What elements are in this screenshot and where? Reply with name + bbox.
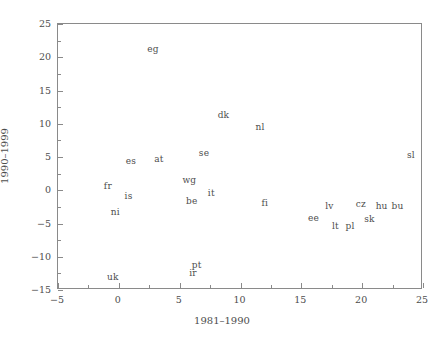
data-point-label: se: [199, 148, 209, 158]
data-point-label: lv: [325, 201, 333, 211]
data-point-label: cz: [356, 199, 366, 209]
data-point-label: pl: [345, 221, 354, 231]
x-axis-minor-tick: [271, 285, 272, 288]
y-axis-minor-tick: [58, 107, 61, 108]
y-axis-tick-label: −5: [23, 217, 51, 228]
y-axis-tick-label: 10: [23, 117, 51, 128]
x-axis-minor-tick: [149, 285, 150, 288]
data-point-label: sk: [364, 214, 374, 224]
y-axis-tick-label: 0: [23, 184, 51, 195]
y-axis-tick-label: 15: [23, 84, 51, 95]
data-point-label: wg: [182, 175, 196, 185]
x-axis-minor-tick: [210, 285, 211, 288]
y-axis-tick: [58, 290, 63, 291]
y-axis-tick: [58, 190, 63, 191]
x-axis-tick-label: −5: [50, 294, 64, 305]
y-axis-minor-tick: [58, 41, 61, 42]
x-axis-tick: [423, 283, 424, 288]
y-axis-tick: [58, 124, 63, 125]
y-axis-tick-label: −10: [23, 250, 51, 261]
x-axis-tick-label: 5: [176, 294, 182, 305]
x-axis-tick: [241, 283, 242, 288]
data-point-label: eg: [147, 44, 159, 54]
y-axis-tick: [58, 157, 63, 158]
y-axis-tick-label: 25: [23, 18, 51, 29]
y-axis-tick-label: −15: [23, 284, 51, 295]
x-axis-tick-label: 0: [115, 294, 121, 305]
data-point-label: sl: [407, 150, 415, 160]
data-point-label: hu: [376, 201, 388, 211]
data-point-label: it: [208, 188, 215, 198]
data-point-label: uk: [107, 272, 119, 282]
y-axis-tick-label: 5: [23, 151, 51, 162]
x-axis-minor-tick: [393, 285, 394, 288]
scatter-plot-figure: egdknlseatesslwgfrisitbefilvczhubunieesk…: [0, 0, 444, 341]
data-point-label: bu: [391, 201, 403, 211]
y-axis-minor-tick: [58, 74, 61, 75]
x-axis-tick-label: 10: [233, 294, 245, 305]
x-axis-minor-tick: [332, 285, 333, 288]
y-axis-tick: [58, 24, 63, 25]
data-point-label: dk: [218, 110, 230, 120]
y-axis-tick-label: 20: [23, 51, 51, 62]
x-axis-tick-label: 15: [294, 294, 306, 305]
y-axis-minor-tick: [58, 174, 61, 175]
x-axis-tick-label: 25: [416, 294, 428, 305]
x-axis-tick: [301, 283, 302, 288]
x-axis-tick: [58, 283, 59, 288]
data-point-label: at: [154, 154, 163, 164]
data-point-label: ni: [111, 207, 120, 217]
y-axis-minor-tick: [58, 140, 61, 141]
y-axis-tick: [58, 91, 63, 92]
data-point-label: nl: [255, 122, 264, 132]
x-axis-tick: [180, 283, 181, 288]
x-axis-tick-label: 20: [355, 294, 367, 305]
data-point-label: fi: [262, 198, 269, 208]
data-point-label: es: [126, 156, 136, 166]
data-point-label: fr: [104, 181, 112, 191]
x-axis-minor-tick: [88, 285, 89, 288]
data-point-label: ee: [308, 213, 319, 223]
data-point-label: is: [125, 191, 133, 201]
y-axis-minor-tick: [58, 207, 61, 208]
x-axis-tick: [362, 283, 363, 288]
x-axis-title: 1981–1990: [0, 315, 444, 326]
y-axis-tick: [58, 57, 63, 58]
plot-area: egdknlseatesslwgfrisitbefilvczhubunieesk…: [57, 23, 422, 289]
data-point-label: be: [186, 196, 198, 206]
y-axis-tick: [58, 257, 63, 258]
data-point-label: lt: [332, 221, 339, 231]
y-axis-tick: [58, 224, 63, 225]
y-axis-minor-tick: [58, 273, 61, 274]
data-point-label: ir: [189, 268, 197, 278]
x-axis-tick: [119, 283, 120, 288]
y-axis-minor-tick: [58, 240, 61, 241]
y-axis-title: 1990–1999: [0, 111, 10, 201]
